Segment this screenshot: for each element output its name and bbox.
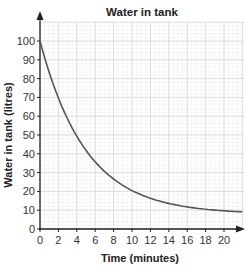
svg-text:0: 0 <box>37 234 43 246</box>
svg-text:4: 4 <box>74 234 80 246</box>
svg-text:0: 0 <box>29 223 35 235</box>
svg-text:16: 16 <box>181 234 193 246</box>
svg-text:60: 60 <box>23 110 35 122</box>
x-axis-label: Time (minutes) <box>101 252 179 264</box>
svg-text:10: 10 <box>126 234 138 246</box>
svg-text:80: 80 <box>23 73 35 85</box>
svg-text:70: 70 <box>23 91 35 103</box>
chart-title: Water in tank <box>106 6 178 18</box>
svg-text:40: 40 <box>23 148 35 160</box>
tick-labels: 024681012141618200102030405060708090100 <box>17 35 230 246</box>
svg-text:50: 50 <box>23 129 35 141</box>
line-chart: 024681012141618200102030405060708090100 … <box>0 0 246 272</box>
svg-text:18: 18 <box>199 234 211 246</box>
svg-text:30: 30 <box>23 167 35 179</box>
svg-text:14: 14 <box>163 234 175 246</box>
svg-text:10: 10 <box>23 204 35 216</box>
svg-text:2: 2 <box>55 234 61 246</box>
y-axis-label: Water in tank (litres) <box>2 82 14 188</box>
svg-text:6: 6 <box>92 234 98 246</box>
svg-text:100: 100 <box>17 35 35 47</box>
svg-text:12: 12 <box>144 234 156 246</box>
svg-text:90: 90 <box>23 54 35 66</box>
svg-text:20: 20 <box>218 234 230 246</box>
svg-text:8: 8 <box>111 234 117 246</box>
svg-text:20: 20 <box>23 185 35 197</box>
